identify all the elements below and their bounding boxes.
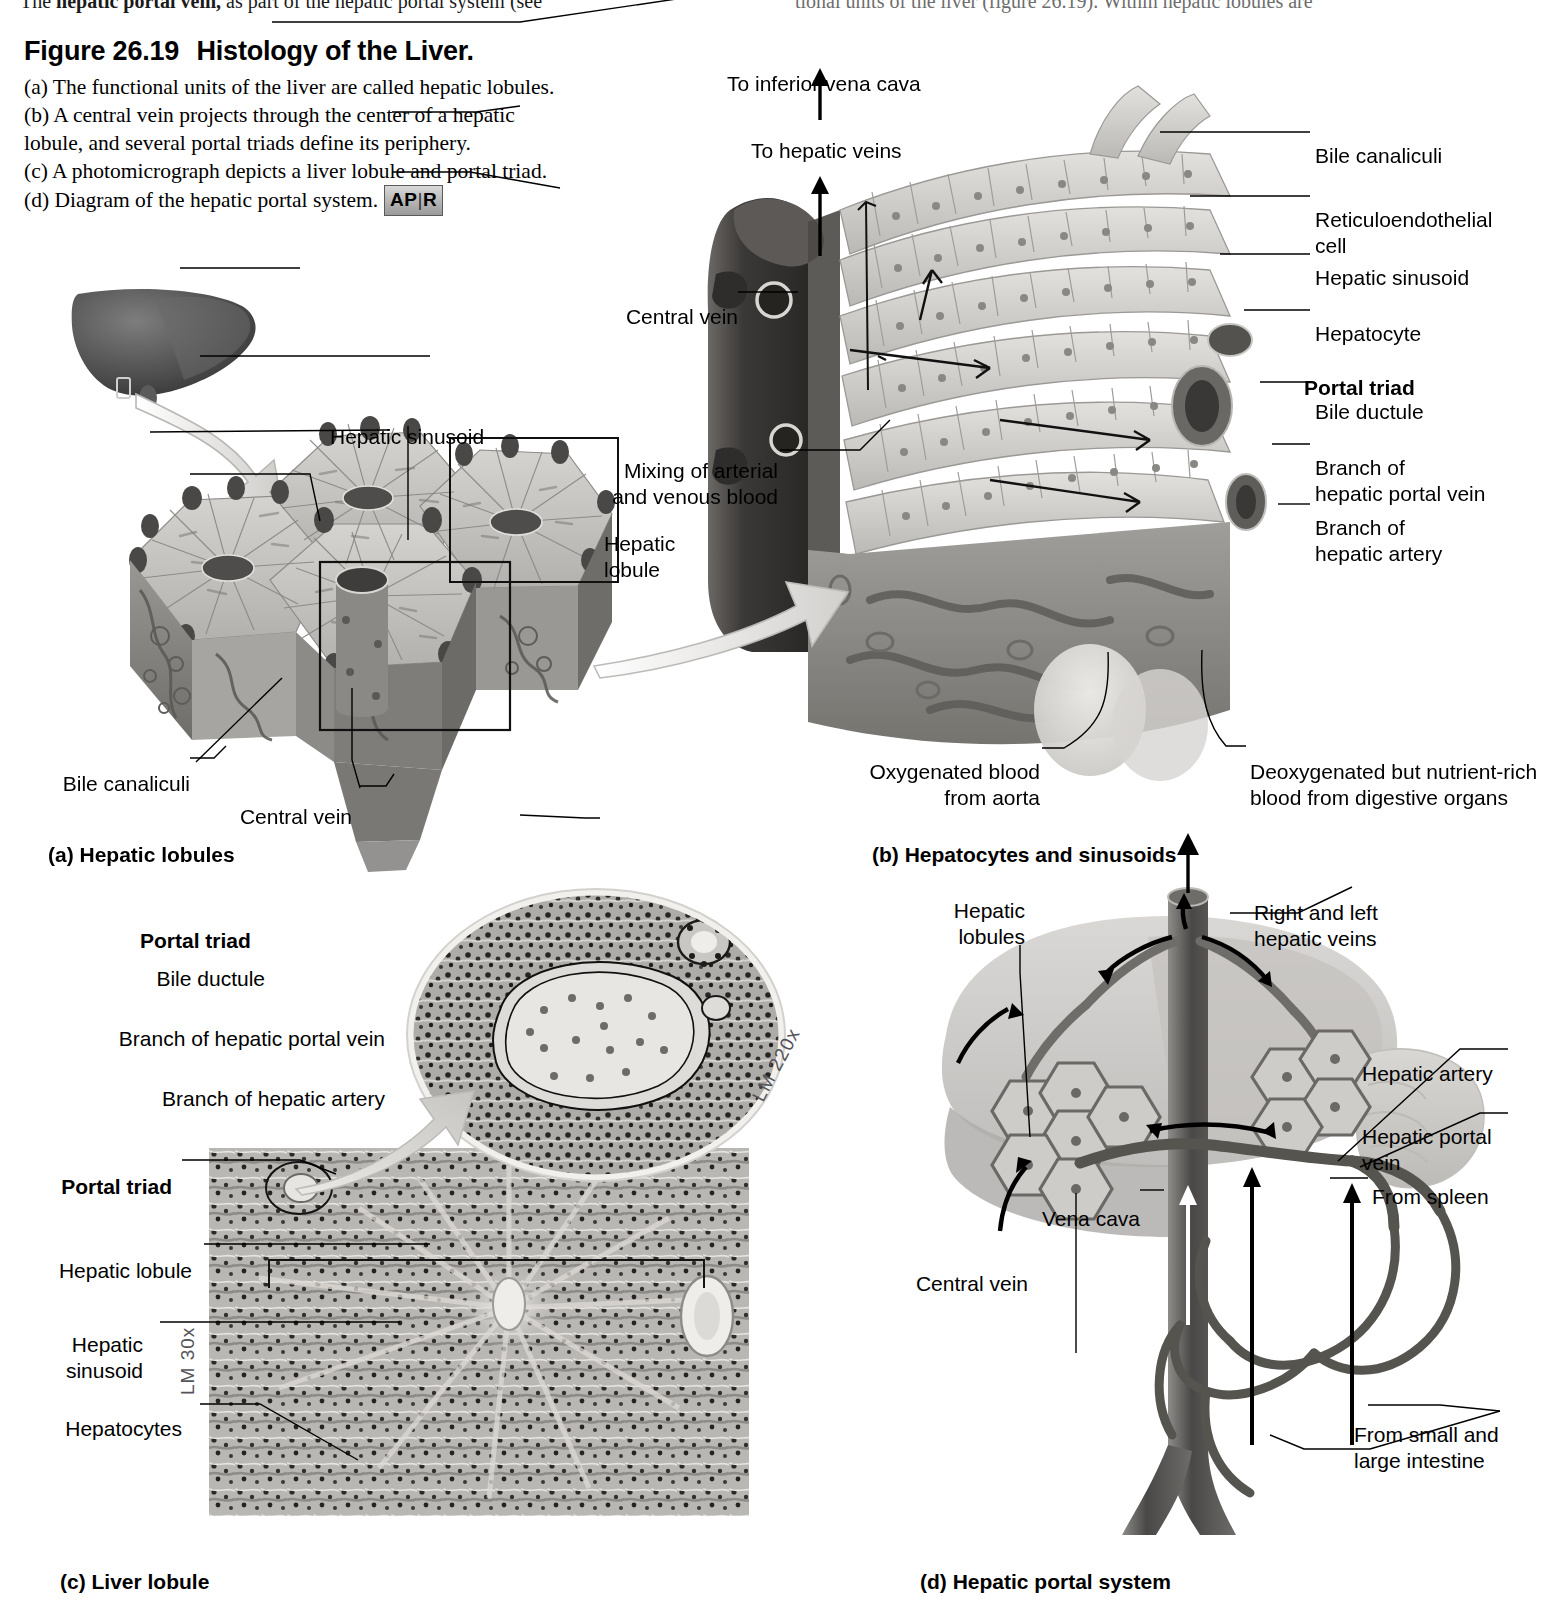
panel-b-label-bile-ductule: Bile ductule [1315,373,1424,425]
panel-d-from-intestine-text: From small and large intestine [1354,1423,1499,1472]
panel-d-central-vein-text: Central vein [916,1272,1028,1295]
panel-c-leaders [0,0,900,520]
panel-d-label-from-spleen: From spleen [1372,1158,1489,1210]
panel-d-caption: (d) Hepatic portal system [920,1570,1171,1594]
panel-d-from-spleen-text: From spleen [1372,1185,1489,1208]
hepatic-artery-inset [702,996,730,1020]
panel-d-hepatic-artery-text: Hepatic artery [1362,1062,1493,1085]
panel-a-caption: (a) Hepatic lobules [48,843,235,867]
panel-c-leaders-lower [140,1140,780,1440]
panel-d-vena-cava-text: Vena cava [1042,1207,1140,1230]
panel-d-caption-text: (d) Hepatic portal system [920,1570,1171,1593]
panel-b-bile-canaliculi-text: Bile canaliculi [1315,144,1442,167]
panel-c-label-hepatic-sinusoid: Hepatic sinusoid [0,1306,143,1384]
panel-c-hepatic-sinusoid-text: Hepatic sinusoid [66,1333,143,1382]
panel-b-label-hepatic-sinusoid: Hepatic sinusoid [1315,239,1469,291]
panel-c-caption: (c) Liver lobule [60,1570,209,1594]
panel-c-label-branch-hepatic-artery: Branch of hepatic artery [0,1060,385,1112]
panel-b-bile-ductule-text: Bile ductule [1315,400,1424,423]
panel-b-oxygenated-text: Oxygenated blood from aorta [870,760,1040,809]
panel-b-branch-hepatic-artery-text: Branch of hepatic artery [1315,516,1442,565]
panel-b-label-branch-hepatic-artery: Branch of hepatic artery [1315,489,1442,567]
panel-c-branch-hepatic-artery-text: Branch of hepatic artery [162,1087,385,1110]
panel-d-label-vena-cava: Vena cava [960,1180,1140,1232]
panel-b-deoxygenated-text: Deoxygenated but nutrient-rich blood fro… [1250,760,1537,809]
panel-b-right-leaders [1150,110,1330,540]
panel-d-label-from-intestine: From small and large intestine [1354,1396,1499,1474]
panel-d-label-hepatic-artery: Hepatic artery [1362,1035,1493,1087]
panel-b-label-hepatocyte: Hepatocyte [1315,295,1421,347]
panel-b-label-oxygenated: Oxygenated blood from aorta [828,733,1040,811]
panel-c-label-bile-ductule: Bile ductule [0,940,265,992]
zoom-arrow-a-to-b [590,570,860,680]
panel-c-label-branch-portal-vein: Branch of hepatic portal vein [0,1000,385,1052]
panel-b-label-deoxygenated: Deoxygenated but nutrient-rich blood fro… [1250,733,1537,811]
panel-b-label-bile-canaliculi: Bile canaliculi [1315,117,1442,169]
panel-d-label-right-left-hepatic-veins: Right and left hepatic veins [1254,874,1378,952]
panel-c-bile-ductule-text: Bile ductule [156,967,265,990]
panel-a-caption-text: (a) Hepatic lobules [48,843,235,866]
panel-a-leader-tails [180,740,420,810]
panel-b-hepatic-sinusoid-text: Hepatic sinusoid [1315,266,1469,289]
panel-b-hepatocyte-text: Hepatocyte [1315,322,1421,345]
panel-c-branch-portal-vein-text: Branch of hepatic portal vein [119,1027,385,1050]
panel-d-label-central-vein: Central vein [880,1245,1028,1297]
panel-d-label-hepatic-lobules: Hepatic lobules [860,872,1025,950]
panel-d-right-left-hepatic-veins-text: Right and left hepatic veins [1254,901,1378,950]
panel-c-caption-text: (c) Liver lobule [60,1570,209,1593]
panel-d-hepatic-lobules-text: Hepatic lobules [954,899,1025,948]
